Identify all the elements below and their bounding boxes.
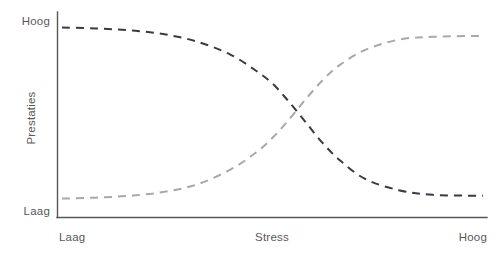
y-tick-label-low: Laag xyxy=(24,205,50,217)
stress-performance-chart: Hoog Laag Prestaties Laag Hoog Stress xyxy=(0,0,498,258)
series-line-descending xyxy=(62,27,483,195)
x-tick-label-high: Hoog xyxy=(459,231,487,243)
x-tick-label-low: Laag xyxy=(59,231,85,243)
x-axis-title: Stress xyxy=(255,231,289,243)
chart-canvas: Hoog Laag Prestaties Laag Hoog Stress xyxy=(0,0,498,258)
y-axis-title: Prestaties xyxy=(25,91,37,144)
series-line-ascending xyxy=(62,36,483,199)
y-tick-label-high: Hoog xyxy=(22,15,50,27)
